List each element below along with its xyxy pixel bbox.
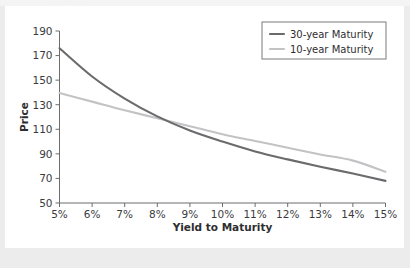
x-tick-label: 14% [341,208,364,220]
series-line [60,48,386,181]
y-tick-label: 170 [32,49,52,61]
legend[interactable]: 30-year Maturity10-year Maturity [262,22,386,59]
y-tick-label: 90 [39,148,52,160]
y-tick-label: 50 [39,197,52,209]
x-axis-title: Yield to Maturity [172,221,273,233]
y-tick-label: 150 [32,74,52,86]
x-tick-label: 6% [84,208,101,220]
series-group [60,48,386,181]
chart-figure: ........... 5070901101301501701905%6%7%8… [0,0,410,268]
y-tick-label: 190 [32,25,52,37]
x-tick-label: 13% [309,208,332,220]
y-tick-label: 110 [32,123,52,135]
x-tick-label: 5% [51,208,68,220]
legend-label: 30-year Maturity [290,29,373,40]
chart-svg: 5070901101301501701905%6%7%8%9%10%11%12%… [0,0,410,268]
series-line [60,93,386,172]
x-tick-label: 10% [211,208,234,220]
y-tick-label: 70 [39,172,52,184]
y-axis-title: Price [18,102,30,132]
x-tick-label: 8% [149,208,166,220]
legend-label: 10-year Maturity [290,44,373,55]
x-tick-label: 15% [374,208,397,220]
x-tick-label: 9% [182,208,199,220]
y-tick-label: 130 [32,99,52,111]
x-tick-label: 7% [116,208,133,220]
x-tick-label: 11% [243,208,266,220]
x-tick-label: 12% [276,208,299,220]
